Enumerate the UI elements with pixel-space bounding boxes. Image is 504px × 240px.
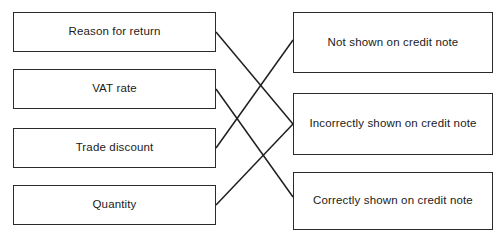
right-box-label-correctly-shown: Correctly shown on credit note [313, 194, 473, 208]
left-box-reason-for-return[interactable]: Reason for return [13, 12, 216, 52]
left-box-quantity[interactable]: Quantity [13, 185, 216, 225]
connector-trade-discount-to-not-shown [216, 40, 293, 148]
matching-diagram: Reason for return VAT rate Trade discoun… [0, 0, 504, 240]
left-box-label-trade-discount: Trade discount [76, 141, 154, 155]
right-box-label-not-shown: Not shown on credit note [328, 36, 459, 50]
right-box-correctly-shown[interactable]: Correctly shown on credit note [293, 172, 493, 230]
left-box-label-quantity: Quantity [92, 198, 136, 212]
left-box-trade-discount[interactable]: Trade discount [13, 128, 216, 168]
right-box-incorrectly-shown[interactable]: Incorrectly shown on credit note [293, 93, 493, 155]
connector-quantity-to-incorrectly-shown [216, 124, 293, 205]
left-box-vat-rate[interactable]: VAT rate [13, 69, 216, 109]
connector-reason-for-return-to-incorrectly-shown [216, 32, 293, 124]
right-box-not-shown[interactable]: Not shown on credit note [293, 12, 493, 73]
left-box-label-vat-rate: VAT rate [92, 82, 137, 96]
left-box-label-reason-for-return: Reason for return [68, 25, 160, 39]
connector-vat-rate-to-correctly-shown [216, 89, 293, 197]
right-box-label-incorrectly-shown: Incorrectly shown on credit note [309, 117, 476, 131]
